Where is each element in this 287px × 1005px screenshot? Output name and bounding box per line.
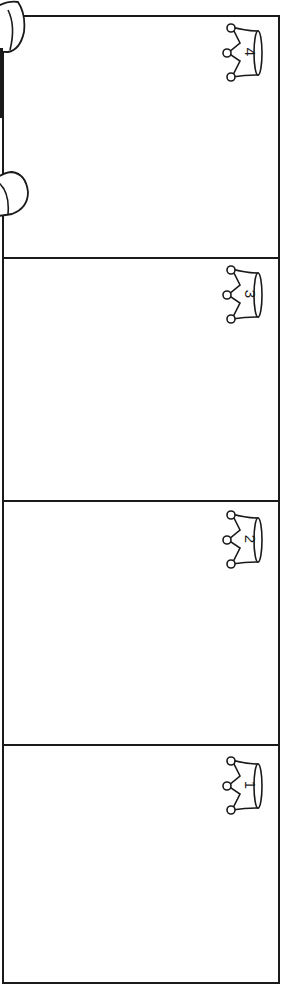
crown-2: 2 — [210, 508, 272, 570]
score-board-strip: 4 3 2 — [2, 15, 280, 984]
panel-3: 3 — [4, 257, 278, 500]
left-edge-bar — [0, 48, 3, 118]
panel-1: 1 — [4, 744, 278, 982]
bottom-clip — [0, 170, 34, 226]
panel-4: 4 — [4, 17, 278, 257]
clip-shape-icon — [0, 0, 34, 56]
crown-1: 1 — [210, 754, 272, 816]
top-clip — [0, 0, 34, 56]
crown-number: 2 — [241, 529, 259, 549]
crown-3: 3 — [210, 263, 272, 325]
crown-number: 3 — [241, 284, 259, 304]
clip-shape-icon — [0, 170, 34, 226]
crown-4: 4 — [210, 21, 272, 83]
panel-2: 2 — [4, 500, 278, 744]
crown-number: 4 — [241, 42, 259, 62]
crown-number: 1 — [241, 775, 259, 795]
